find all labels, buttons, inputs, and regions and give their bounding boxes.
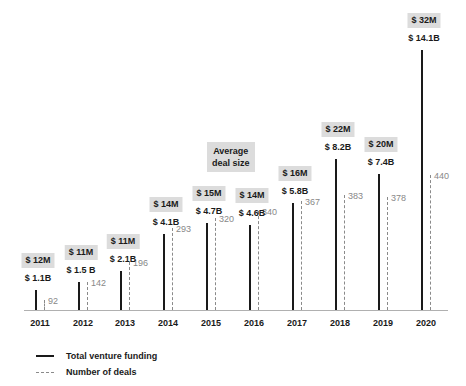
deals-bar bbox=[44, 300, 45, 310]
avg-deal-size-badge: $ 11M bbox=[107, 234, 140, 249]
funding-label: $ 4.7B bbox=[196, 206, 223, 217]
year-tick-label: 2020 bbox=[416, 318, 436, 328]
annotation-line-2: deal size bbox=[212, 157, 250, 169]
deals-label: 142 bbox=[91, 278, 106, 289]
funding-bar bbox=[35, 290, 37, 310]
funding-label: $ 5.8B bbox=[282, 186, 309, 197]
year-tick-label: 2012 bbox=[73, 318, 93, 328]
deals-bar bbox=[129, 262, 130, 310]
deals-label: 440 bbox=[434, 171, 449, 182]
funding-label: $ 4.6B bbox=[239, 208, 266, 219]
deals-label: 378 bbox=[391, 193, 406, 204]
funding-label: $ 2.1B bbox=[110, 254, 137, 265]
funding-label: $ 8.2B bbox=[325, 142, 352, 153]
avg-deal-size-badge: $ 12M bbox=[21, 253, 54, 268]
legend-total-funding: Total venture funding bbox=[36, 351, 157, 361]
year-tick-label: 2013 bbox=[115, 318, 135, 328]
legend-label: Number of deals bbox=[66, 367, 137, 377]
avg-deal-size-badge: $ 15M bbox=[192, 186, 225, 201]
x-axis bbox=[24, 310, 448, 311]
deals-bar bbox=[430, 175, 431, 310]
deals-label: 383 bbox=[348, 191, 363, 202]
funding-bar bbox=[335, 159, 337, 310]
year-tick-label: 2017 bbox=[287, 318, 307, 328]
dashed-line-icon bbox=[36, 372, 54, 373]
funding-label: $ 7.4B bbox=[368, 157, 395, 168]
year-tick-label: 2011 bbox=[30, 318, 50, 328]
avg-deal-size-badge: $ 11M bbox=[65, 245, 98, 260]
year-tick-label: 2019 bbox=[373, 318, 393, 328]
funding-bar bbox=[249, 225, 251, 310]
avg-deal-size-badge: $ 22M bbox=[321, 122, 354, 137]
deals-label: 367 bbox=[305, 197, 320, 208]
year-tick-label: 2015 bbox=[201, 318, 221, 328]
deals-bar bbox=[344, 195, 345, 310]
avg-deal-size-badge: $ 32M bbox=[407, 13, 440, 28]
funding-bar bbox=[378, 174, 380, 310]
avg-deal-size-badge: $ 14M bbox=[235, 188, 268, 203]
deals-bar bbox=[215, 218, 216, 310]
year-tick-label: 2014 bbox=[158, 318, 178, 328]
funding-bar bbox=[292, 203, 294, 310]
funding-bar bbox=[78, 282, 80, 310]
funding-bar bbox=[206, 223, 208, 310]
legend-label: Total venture funding bbox=[66, 351, 157, 361]
avg-deal-size-badge: $ 14M bbox=[149, 197, 182, 212]
avg-deal-size-badge: $ 20M bbox=[364, 137, 397, 152]
avg-deal-size-badge: $ 16M bbox=[278, 166, 311, 181]
average-deal-size-annotation: Average deal size bbox=[207, 142, 255, 172]
deals-bar bbox=[87, 282, 88, 310]
funding-label: $ 4.1B bbox=[153, 217, 180, 228]
deals-bar bbox=[172, 228, 173, 310]
solid-line-icon bbox=[36, 355, 54, 357]
legend-number-of-deals: Number of deals bbox=[36, 367, 137, 377]
deals-bar bbox=[301, 201, 302, 310]
funding-label: $ 1.1B bbox=[25, 273, 52, 284]
funding-bar bbox=[421, 50, 423, 310]
year-tick-label: 2018 bbox=[330, 318, 350, 328]
deals-bar bbox=[258, 211, 259, 310]
year-tick-label: 2016 bbox=[244, 318, 264, 328]
deals-bar bbox=[387, 197, 388, 310]
funding-bar bbox=[120, 271, 122, 310]
funding-bar bbox=[163, 234, 165, 310]
funding-label: $ 1.5 B bbox=[66, 265, 95, 276]
funding-label: $ 14.1B bbox=[408, 33, 440, 44]
annotation-line-1: Average bbox=[212, 145, 250, 157]
deals-label: 92 bbox=[48, 296, 58, 307]
